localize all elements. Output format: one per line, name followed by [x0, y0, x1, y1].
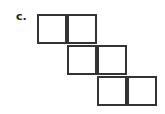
figure-label: c. — [16, 10, 27, 23]
square-r2-c2 — [97, 76, 127, 106]
square-r2-c3 — [127, 76, 157, 106]
square-r0-c1 — [67, 14, 97, 44]
square-r1-c2 — [97, 45, 127, 75]
square-r1-c1 — [67, 45, 97, 75]
square-r0-c0 — [37, 14, 67, 44]
